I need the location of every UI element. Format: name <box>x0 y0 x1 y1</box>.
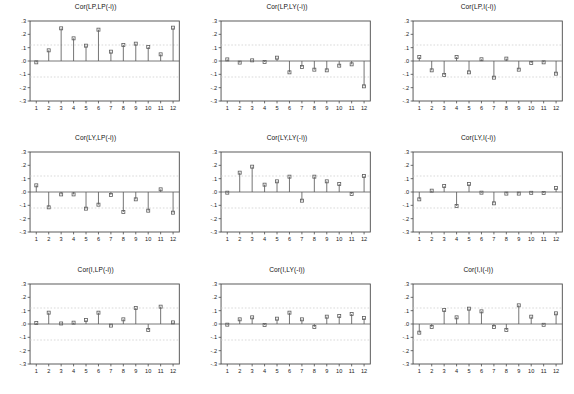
x-axis-label: 6 <box>97 105 100 111</box>
stem-bar <box>172 26 175 61</box>
stem-bar <box>134 192 137 201</box>
y-axis-label: .1 <box>213 176 218 182</box>
stem-bar <box>147 192 150 212</box>
stem-bar <box>47 311 50 324</box>
stem-bar <box>109 324 112 327</box>
stem-bar <box>72 37 75 61</box>
x-axis-label: 9 <box>134 236 137 242</box>
x-axis-label: 6 <box>288 105 291 111</box>
stem-bar <box>313 61 316 71</box>
stem-bar <box>492 324 495 328</box>
y-axis-label: .3 <box>404 281 409 287</box>
x-axis-label: 8 <box>122 368 125 374</box>
stem-bar <box>467 61 470 74</box>
stem-bar <box>60 27 63 61</box>
x-axis-label: 4 <box>263 368 266 374</box>
x-axis-label: 4 <box>455 236 458 242</box>
stem-bar <box>122 44 125 62</box>
x-axis-label: 6 <box>480 105 483 111</box>
plot-area: .3.2.1.0-.1-.2-.3123456789101112 <box>191 277 382 383</box>
stem-bar <box>288 61 291 74</box>
y-axis-label: -.3 <box>402 229 409 235</box>
stem-bar <box>109 50 112 61</box>
x-axis-label: 5 <box>84 368 87 374</box>
x-axis-label: 9 <box>517 105 520 111</box>
stem-bar <box>363 175 366 193</box>
plot-area: .3.2.1.0-.1-.2-.3123456789101112 <box>383 145 574 251</box>
x-axis-label: 5 <box>467 105 470 111</box>
x-axis-label: 10 <box>528 236 534 242</box>
stem-bar <box>529 315 532 324</box>
x-axis-label: 4 <box>263 105 266 111</box>
stem-bar <box>554 311 557 323</box>
stem-bar <box>517 303 520 323</box>
x-axis-label: 7 <box>492 368 495 374</box>
stem-bar <box>85 318 88 324</box>
chart-panel: Cor(LY,LP(-i)).3.2.1.0-.1-.2-.3123456789… <box>0 131 191 262</box>
x-axis-label: 11 <box>349 368 355 374</box>
x-axis-label: 9 <box>326 105 329 111</box>
stem-bar <box>147 46 150 62</box>
stem-bar <box>122 192 125 214</box>
y-axis-label: .3 <box>213 149 218 155</box>
x-axis-label: 1 <box>226 105 229 111</box>
x-axis-label: 12 <box>170 368 176 374</box>
x-axis-label: 1 <box>35 236 38 242</box>
x-axis-label: 6 <box>288 236 291 242</box>
y-axis-label: -.2 <box>402 85 409 91</box>
x-axis-label: 12 <box>553 236 559 242</box>
x-axis-label: 8 <box>504 368 507 374</box>
x-axis-label: 2 <box>430 236 433 242</box>
x-axis-label: 3 <box>251 236 254 242</box>
chart-panel: Cor(I,I(-i)).3.2.1.0-.1-.2-.312345678910… <box>383 263 574 394</box>
x-axis-label: 5 <box>276 236 279 242</box>
x-axis-label: 10 <box>336 368 342 374</box>
stem-bar <box>529 61 532 65</box>
plot-area: .3.2.1.0-.1-.2-.3123456789101112 <box>383 14 574 120</box>
stem-bar <box>350 312 353 324</box>
stem-bar <box>480 309 483 323</box>
stem-bar <box>97 311 100 324</box>
chart-title: Cor(I,LP(-i)) <box>0 266 191 273</box>
stem-bar <box>159 53 162 61</box>
x-axis-label: 11 <box>158 105 164 111</box>
stem-bar <box>467 307 470 324</box>
stem-bar <box>134 306 137 324</box>
y-axis-label: -.2 <box>402 216 409 222</box>
y-axis-label: -.2 <box>20 85 27 91</box>
y-axis-label: .2 <box>213 31 218 37</box>
y-axis-label: .2 <box>213 163 218 169</box>
y-axis-label: -.2 <box>211 216 218 222</box>
y-axis-label: .0 <box>21 58 26 64</box>
y-axis-label: .0 <box>213 189 218 195</box>
x-axis-label: 3 <box>251 368 254 374</box>
stem-bar <box>442 308 445 324</box>
stem-bar <box>226 58 229 61</box>
stem-bar <box>455 56 458 62</box>
stem-bar <box>60 322 63 325</box>
stem-bar <box>122 317 125 323</box>
y-axis-label: .0 <box>21 189 26 195</box>
x-axis-label: 3 <box>251 105 254 111</box>
x-axis-label: 9 <box>517 236 520 242</box>
stem-bar <box>430 324 433 328</box>
stem-bar <box>239 317 242 323</box>
stem-bar <box>350 192 353 196</box>
x-axis-label: 6 <box>97 368 100 374</box>
x-axis-label: 12 <box>170 236 176 242</box>
stem-bar <box>455 315 458 323</box>
x-axis-label: 8 <box>504 236 507 242</box>
x-axis-label: 11 <box>349 105 355 111</box>
x-axis-label: 10 <box>145 236 151 242</box>
x-axis-label: 3 <box>60 368 63 374</box>
y-axis-label: -.1 <box>211 71 218 77</box>
y-axis-label: .3 <box>213 18 218 24</box>
stem-bar <box>442 61 445 77</box>
stem-bar <box>504 192 507 195</box>
x-axis-label: 11 <box>349 236 355 242</box>
chart-panel: Cor(LP,I(-i)).3.2.1.0-.1-.2-.31234567891… <box>383 0 574 131</box>
y-axis-label: -.3 <box>211 229 218 235</box>
y-axis-label: .3 <box>21 18 26 24</box>
x-axis-label: 2 <box>47 105 50 111</box>
x-axis-label: 9 <box>326 368 329 374</box>
